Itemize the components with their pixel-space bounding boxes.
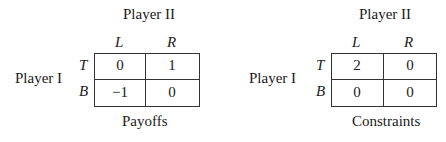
matrix-divider-horizontal bbox=[94, 79, 200, 80]
column-header-r: R bbox=[404, 34, 413, 51]
matrix-caption: Payoffs bbox=[122, 113, 168, 130]
row-player-label: Player I bbox=[249, 70, 296, 87]
row-header-t: T bbox=[316, 57, 324, 74]
cell-t-r: 0 bbox=[384, 57, 436, 74]
row-header-b: B bbox=[79, 83, 88, 100]
row-header-t: T bbox=[79, 57, 87, 74]
column-header-r: R bbox=[167, 34, 176, 51]
cell-b-r: 0 bbox=[384, 84, 436, 101]
cell-t-l: 2 bbox=[331, 57, 383, 74]
matrix-caption: Constraints bbox=[352, 113, 420, 130]
row-player-label: Player I bbox=[15, 70, 62, 87]
column-header-l: L bbox=[352, 34, 360, 51]
matrix-divider-horizontal bbox=[331, 79, 437, 80]
cell-t-l: 0 bbox=[94, 57, 146, 74]
column-player-label: Player II bbox=[359, 6, 411, 23]
cell-t-r: 1 bbox=[146, 57, 198, 74]
row-header-b: B bbox=[316, 83, 325, 100]
cell-b-l: −1 bbox=[94, 84, 146, 101]
cell-b-r: 0 bbox=[146, 84, 198, 101]
column-header-l: L bbox=[115, 34, 123, 51]
column-player-label: Player II bbox=[123, 6, 175, 23]
cell-b-l: 0 bbox=[331, 84, 383, 101]
